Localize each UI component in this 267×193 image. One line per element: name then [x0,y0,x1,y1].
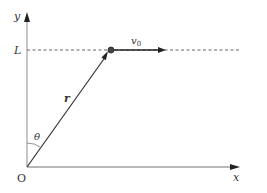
position-vector-label: r [64,92,71,105]
position-vector-arrow-icon [102,51,109,60]
height-label: L [13,44,21,57]
particle-point [108,47,114,53]
angle-label: θ [34,131,40,142]
x-axis [27,164,240,170]
y-axis [24,12,30,167]
x-axis-label: x [233,171,240,184]
diagram-canvas: y x L v0 r θ O [0,0,267,193]
y-axis-arrow-icon [24,12,30,22]
origin-label: O [17,172,26,185]
y-axis-label: y [13,10,21,23]
x-axis-arrow-icon [230,164,240,170]
velocity-label: v0 [131,35,141,48]
position-vector [27,56,106,167]
velocity-arrow-icon [158,47,166,53]
angle-arc [27,143,41,148]
